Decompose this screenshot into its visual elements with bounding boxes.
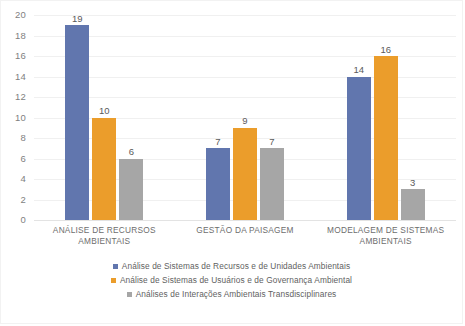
legend-item[interactable]: Análises de Interações Ambientais Transd… bbox=[127, 289, 337, 300]
y-axis: 20 18 16 14 12 10 8 6 4 2 0 bbox=[1, 15, 31, 220]
y-axis-tick: 16 bbox=[15, 51, 26, 61]
y-axis-tick: 14 bbox=[15, 72, 26, 82]
y-axis-tick: 6 bbox=[21, 154, 26, 164]
bar-series-1[interactable] bbox=[65, 25, 89, 220]
bar-groups: 19 10 6 7 bbox=[34, 15, 456, 220]
plot-area: 19 10 6 7 bbox=[34, 15, 456, 220]
category-label-line2: AMBIENTAIS bbox=[78, 236, 130, 246]
bar-column: 6 bbox=[119, 15, 143, 220]
x-axis-labels: ANÁLISE DE RECURSOS AMBIENTAIS GESTÃO DA… bbox=[34, 225, 456, 247]
legend: Análise de Sistemas de Recursos e de Uni… bbox=[1, 261, 462, 300]
legend-item-label: Análise de Sistemas de Usuários e de Gov… bbox=[120, 275, 352, 286]
bar-column: 19 bbox=[65, 15, 89, 220]
category-label-line1: MODELAGEM DE SISTEMAS bbox=[327, 225, 444, 235]
bar-column: 9 bbox=[233, 15, 257, 220]
legend-swatch-icon bbox=[111, 278, 116, 283]
legend-item-label: Análises de Interações Ambientais Transd… bbox=[136, 289, 337, 300]
legend-swatch-icon bbox=[127, 292, 132, 297]
legend-swatch-icon bbox=[113, 264, 118, 269]
y-axis-tick: 10 bbox=[15, 113, 26, 123]
bar-value-label: 7 bbox=[215, 137, 220, 147]
bar-group: 14 16 3 bbox=[315, 15, 456, 220]
bar-column: 10 bbox=[92, 15, 116, 220]
y-axis-tick: 8 bbox=[21, 133, 26, 143]
bar-value-label: 9 bbox=[242, 116, 247, 126]
bar-series-3[interactable] bbox=[119, 159, 143, 221]
bar-series-2[interactable] bbox=[374, 56, 398, 220]
legend-item-label: Análise de Sistemas de Recursos e de Uni… bbox=[122, 261, 350, 272]
category-label-line2: AMBIENTAIS bbox=[360, 236, 412, 246]
bar-series-1[interactable] bbox=[347, 77, 371, 221]
bar-series-2[interactable] bbox=[233, 128, 257, 220]
x-axis-category-label: ANÁLISE DE RECURSOS AMBIENTAIS bbox=[34, 225, 175, 247]
y-axis-tick: 20 bbox=[15, 10, 26, 20]
bar-series-2[interactable] bbox=[92, 118, 116, 221]
bar-chart: 20 18 16 14 12 10 8 6 4 2 0 bbox=[0, 0, 463, 324]
legend-item[interactable]: Análise de Sistemas de Recursos e de Uni… bbox=[113, 261, 350, 272]
bar-value-label: 7 bbox=[269, 137, 274, 147]
y-axis-tick: 12 bbox=[15, 92, 26, 102]
bar-value-label: 16 bbox=[380, 45, 391, 55]
bar-column: 7 bbox=[260, 15, 284, 220]
category-label-line1: GESTÃO DA PAISAGEM bbox=[196, 225, 293, 235]
bar-column: 3 bbox=[401, 15, 425, 220]
legend-item[interactable]: Análise de Sistemas de Usuários e de Gov… bbox=[111, 275, 352, 286]
bar-value-label: 19 bbox=[72, 14, 83, 24]
bar-value-label: 10 bbox=[99, 106, 110, 116]
category-label-line1: ANÁLISE DE RECURSOS bbox=[53, 225, 156, 235]
x-axis-category-label: MODELAGEM DE SISTEMAS AMBIENTAIS bbox=[315, 225, 456, 247]
y-axis-tick: 0 bbox=[21, 215, 26, 225]
bar-value-label: 14 bbox=[353, 65, 364, 75]
axis-baseline bbox=[34, 220, 456, 221]
bar-series-3[interactable] bbox=[260, 148, 284, 220]
y-axis-tick: 18 bbox=[15, 31, 26, 41]
bar-group: 7 9 7 bbox=[175, 15, 316, 220]
bar-series-1[interactable] bbox=[206, 148, 230, 220]
bar-value-label: 6 bbox=[129, 147, 134, 157]
bar-column: 16 bbox=[374, 15, 398, 220]
bar-series-3[interactable] bbox=[401, 189, 425, 220]
bar-group: 19 10 6 bbox=[34, 15, 175, 220]
y-axis-tick: 4 bbox=[21, 174, 26, 184]
bar-value-label: 3 bbox=[410, 178, 415, 188]
y-axis-tick: 2 bbox=[21, 195, 26, 205]
x-axis-category-label: GESTÃO DA PAISAGEM bbox=[175, 225, 316, 247]
bar-column: 14 bbox=[347, 15, 371, 220]
bar-column: 7 bbox=[206, 15, 230, 220]
